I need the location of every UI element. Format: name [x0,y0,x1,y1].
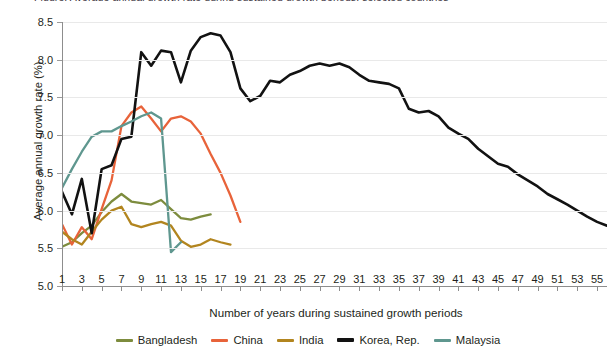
legend-item[interactable]: Bangladesh [116,334,198,346]
x-tick-label: 47 [512,273,524,285]
x-tick-label: 3 [79,273,85,285]
series-line [62,194,211,247]
x-tick-label: 15 [195,273,207,285]
gridline [62,211,607,212]
x-tick-label: 33 [373,273,385,285]
legend-label: Malaysia [456,334,501,346]
x-tick-mark [538,286,539,291]
x-tick-mark [359,286,360,291]
legend-label: India [299,334,324,346]
x-tick-label: 25 [294,273,306,285]
x-tick-label: 39 [432,273,444,285]
x-tick-mark [597,286,598,291]
x-tick-label: 9 [138,273,144,285]
y-tick-label: 7.0 [0,130,53,141]
y-tick-label: 6.0 [0,205,53,216]
gridline [62,97,607,98]
gridline [62,135,607,136]
x-tick-label: 13 [175,273,187,285]
chart-figure: Figure: Average annual growth rate durin… [0,0,616,358]
x-tick-mark [419,286,420,291]
x-tick-label: 29 [333,273,345,285]
y-tick-label: 6.5 [0,167,53,178]
y-tick-label: 5.5 [0,243,53,254]
gridline [62,173,607,174]
x-tick-mark [320,286,321,291]
legend-label: Bangladesh [138,334,198,346]
x-tick-label: 35 [393,273,405,285]
gridline [62,22,607,23]
legend-swatch-icon [211,339,228,342]
y-tick-label: 8.5 [0,17,53,28]
y-tick-label: 8.0 [0,54,53,65]
legend-item[interactable]: China [211,334,263,346]
x-tick-mark [439,286,440,291]
chart-title-clipped: Figure: Average annual growth rate durin… [34,0,594,1]
x-tick-label: 41 [452,273,464,285]
x-tick-label: 45 [492,273,504,285]
x-tick-mark [339,286,340,291]
gridline [62,60,607,61]
x-tick-label: 37 [413,273,425,285]
x-tick-mark [300,286,301,291]
x-axis-line [62,286,607,287]
x-axis-title: Number of years during sustained growth … [62,306,610,319]
x-tick-mark [121,286,122,291]
x-tick-mark [141,286,142,291]
y-tick-label: 7.5 [0,92,53,103]
x-tick-label: 1 [59,273,65,285]
legend-item[interactable]: Malaysia [434,334,501,346]
y-axis-title: Average annual growth rate (%) [32,6,44,276]
x-tick-label: 51 [551,273,563,285]
x-tick-label: 27 [314,273,326,285]
x-tick-label: 43 [472,273,484,285]
x-tick-mark [518,286,519,291]
x-tick-mark [82,286,83,291]
x-tick-label: 7 [118,273,124,285]
x-tick-mark [62,286,63,291]
x-tick-mark [399,286,400,291]
x-tick-mark [260,286,261,291]
x-tick-mark [498,286,499,291]
y-axis-line [62,22,63,286]
y-tick-label: 5.0 [0,281,53,292]
legend-swatch-icon [116,339,133,342]
legend-swatch-icon [277,339,294,342]
chart-legend: BangladeshChinaIndiaKorea, Rep.Malaysia [0,334,616,346]
legend-swatch-icon [434,339,451,342]
x-tick-label: 17 [214,273,226,285]
legend-item[interactable]: India [277,334,324,346]
plot-area [62,22,607,286]
x-tick-mark [379,286,380,291]
series-lines [62,22,607,286]
x-tick-label: 49 [532,273,544,285]
legend-label: Korea, Rep. [359,334,419,346]
x-tick-mark [181,286,182,291]
x-tick-mark [458,286,459,291]
x-tick-mark [557,286,558,291]
x-tick-mark [102,286,103,291]
x-tick-mark [161,286,162,291]
legend-swatch-icon [337,338,354,341]
x-tick-mark [221,286,222,291]
x-tick-label: 23 [274,273,286,285]
x-tick-mark [577,286,578,291]
gridline [62,248,607,249]
x-tick-label: 55 [591,273,603,285]
x-tick-mark [240,286,241,291]
x-tick-label: 5 [99,273,105,285]
x-tick-mark [478,286,479,291]
x-tick-mark [280,286,281,291]
x-tick-mark [201,286,202,291]
x-tick-label: 21 [254,273,266,285]
x-tick-label: 31 [353,273,365,285]
x-tick-label: 11 [155,273,166,285]
x-tick-label: 19 [234,273,246,285]
legend-item[interactable]: Korea, Rep. [337,334,419,346]
legend-label: China [233,334,263,346]
x-tick-label: 53 [571,273,583,285]
